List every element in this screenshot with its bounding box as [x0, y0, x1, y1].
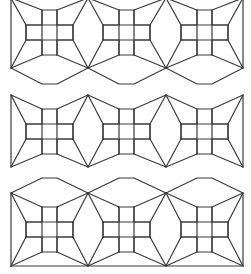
connector — [228, 237, 243, 266]
connector — [212, 193, 243, 207]
octagon-edge — [166, 68, 243, 84]
connector — [212, 95, 243, 109]
connector — [228, 193, 243, 222]
tessellation-figure — [0, 0, 251, 274]
cross-grid — [181, 109, 228, 154]
cross-grid — [103, 10, 150, 55]
cross-grid — [103, 109, 150, 154]
connector — [11, 139, 26, 167]
cross-grid — [103, 207, 150, 252]
connector — [73, 0, 88, 25]
connector — [11, 95, 26, 124]
connector — [11, 193, 42, 207]
connector — [150, 95, 166, 124]
connector — [88, 154, 119, 167]
cross-grid — [181, 207, 228, 252]
connector — [166, 40, 181, 68]
octagon-edge — [11, 178, 88, 193]
cross-grid — [26, 207, 73, 252]
connector — [166, 95, 197, 109]
connector — [88, 193, 119, 207]
connector — [166, 154, 197, 167]
connector — [228, 95, 243, 124]
connector — [57, 193, 88, 207]
connector — [212, 0, 243, 10]
cross-grid — [26, 10, 73, 55]
connector — [166, 193, 197, 207]
connector — [134, 95, 166, 109]
connector — [150, 0, 166, 25]
connector — [134, 252, 166, 266]
connector — [11, 252, 42, 266]
connector — [166, 193, 181, 222]
connector — [150, 40, 166, 68]
connector — [57, 252, 88, 266]
connector — [166, 55, 197, 68]
connector — [150, 139, 166, 167]
connector — [11, 95, 42, 109]
connector — [11, 154, 42, 167]
connector — [212, 55, 243, 68]
connector — [88, 237, 103, 266]
cross-grid — [26, 109, 73, 154]
connector — [228, 40, 243, 68]
connector — [57, 55, 88, 68]
connector — [88, 95, 103, 124]
connector — [88, 0, 103, 25]
connector — [57, 95, 88, 109]
connector — [11, 55, 42, 68]
connector — [134, 154, 166, 167]
connector — [73, 40, 88, 68]
connector — [11, 237, 26, 266]
connector — [88, 55, 119, 68]
connector — [166, 0, 197, 10]
connector — [11, 0, 26, 25]
connector — [73, 193, 88, 222]
octagon-edge — [166, 178, 243, 193]
connector — [88, 252, 119, 266]
connector — [11, 193, 26, 222]
cross-grid — [181, 10, 228, 55]
connector — [228, 139, 243, 167]
connector — [57, 154, 88, 167]
connector — [166, 252, 197, 266]
connector — [134, 55, 166, 68]
connector — [228, 0, 243, 25]
connector — [150, 193, 166, 222]
connector — [212, 154, 243, 167]
connector — [166, 95, 181, 124]
connector — [88, 193, 103, 222]
octagon-edge — [88, 68, 166, 84]
connector — [166, 0, 181, 25]
connector — [57, 0, 88, 10]
connector — [134, 193, 166, 207]
connector — [73, 95, 88, 124]
connector — [73, 237, 88, 266]
connector — [11, 40, 26, 68]
connector — [166, 139, 181, 167]
octagon-edge — [88, 178, 166, 193]
connector — [166, 237, 181, 266]
pattern-svg — [0, 0, 251, 274]
connector — [150, 237, 166, 266]
connector — [212, 252, 243, 266]
connector — [73, 139, 88, 167]
connector — [88, 139, 103, 167]
connector — [11, 0, 42, 10]
connector — [88, 0, 119, 10]
octagon-edge — [11, 68, 88, 84]
connector — [88, 95, 119, 109]
connector — [88, 40, 103, 68]
